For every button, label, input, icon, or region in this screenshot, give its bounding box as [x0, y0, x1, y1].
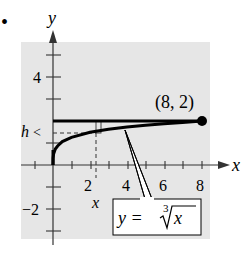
x-tick-label-2: 2 [84, 177, 92, 194]
y-axis-label: y [46, 8, 56, 28]
y-axis-arrow-icon [49, 30, 57, 43]
equation-root-index: 3 [163, 202, 169, 214]
x-axis-label: x [231, 155, 240, 175]
endpoint-8-2 [197, 116, 207, 126]
x-tick-label-4: 4 [122, 177, 130, 194]
x-tick-label-6: 6 [159, 177, 167, 194]
y-tick-label-4: 4 [33, 69, 41, 86]
diagram-canvas: • y x 2 4 6 8 4 −2 (8, 2) h < x y = 3 x [0, 0, 245, 255]
point-label: (8, 2) [155, 92, 194, 113]
h-pointer-icon: < [33, 125, 41, 140]
equation-radicand: x [173, 208, 182, 228]
bullet: • [1, 11, 8, 33]
x-marker-label: x [91, 194, 99, 211]
y-tick-label-neg2: −2 [22, 201, 39, 218]
x-tick-label-8: 8 [196, 177, 204, 194]
equation-lhs: y = [116, 208, 147, 228]
h-label: h [21, 123, 29, 140]
x-axis-arrow-icon [218, 161, 230, 169]
callout-join [140, 197, 154, 201]
